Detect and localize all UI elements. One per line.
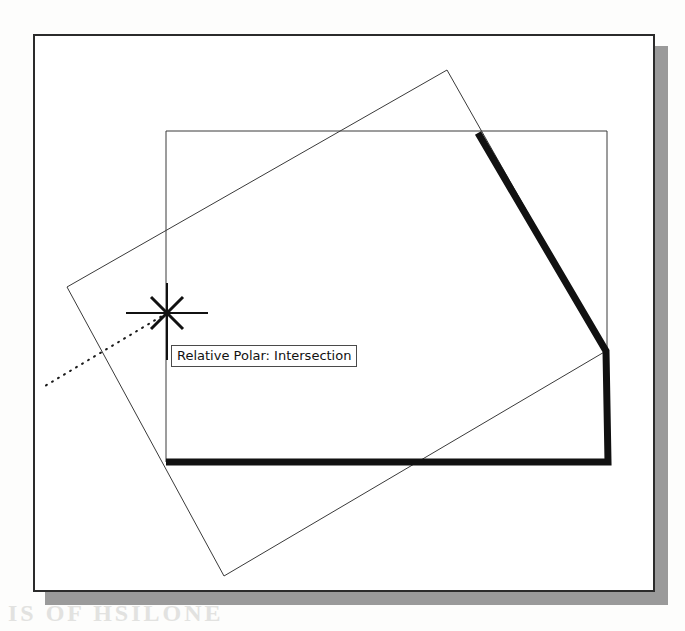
screenshot-root: DRAWING TOOLS figure Relative Polar: Int… bbox=[0, 0, 685, 631]
figure-frame bbox=[33, 34, 655, 592]
snap-tooltip: Relative Polar: Intersection bbox=[171, 345, 357, 367]
